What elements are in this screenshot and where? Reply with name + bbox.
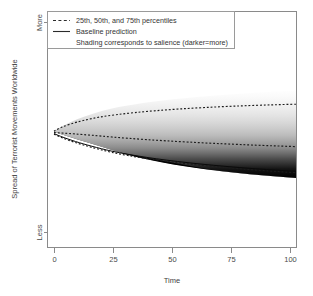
x-tick-label-50: 50 bbox=[168, 255, 176, 264]
fan-chart-figure: More Less Spread of Terrorist Movements … bbox=[0, 0, 313, 296]
x-tick-label-25: 25 bbox=[109, 255, 117, 264]
x-axis-title: Time bbox=[164, 276, 180, 285]
y-axis-title: Spread of Terrorist Movements Worldwide bbox=[10, 59, 19, 198]
x-tick-label-75: 75 bbox=[227, 255, 235, 264]
legend-label-percentiles: 25th, 50th, and 75th percentiles bbox=[76, 16, 177, 25]
legend-label-shading: Shading corresponds to salience (darker=… bbox=[76, 38, 228, 47]
legend-label-baseline: Baseline prediction bbox=[76, 27, 137, 36]
chart-svg: More Less Spread of Terrorist Movements … bbox=[0, 0, 313, 296]
x-tick-label-100: 100 bbox=[284, 255, 297, 264]
y-tick-label-less: Less bbox=[35, 224, 44, 240]
y-tick-label-more: More bbox=[35, 14, 44, 31]
x-tick-label-0: 0 bbox=[52, 255, 56, 264]
